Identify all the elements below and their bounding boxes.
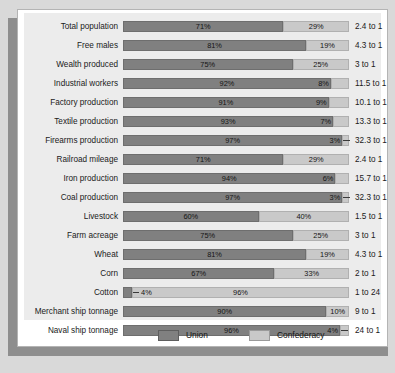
stacked-bar: 4%96% (123, 287, 349, 298)
stacked-bar: 71%29% (123, 154, 349, 165)
row-category-label: Wealth produced (24, 55, 118, 74)
bar-value-union: 75% (123, 59, 293, 70)
legend-label-confederacy: Confederacy (277, 330, 325, 340)
bar-value-confederacy: 40% (259, 211, 349, 222)
legend-entry-union[interactable]: Union (158, 326, 208, 344)
row-ratio-label: 4.3 to 1 (355, 36, 382, 55)
row-category-label: Free males (24, 36, 118, 55)
stacked-bar: 97%3% (123, 192, 349, 203)
bar-value-confederacy: 19% (306, 40, 349, 51)
row-ratio-label: 3 to 1 (355, 55, 376, 74)
row-category-label: Merchant ship tonnage (24, 302, 118, 321)
stacked-bar: 97%3% (123, 135, 349, 146)
bar-value-confederacy: 29% (283, 21, 349, 32)
chart-row: Merchant ship tonnage90%10%9 to 1 (24, 302, 381, 321)
row-category-label: Factory production (24, 93, 118, 112)
bar-segment-confederacy (331, 78, 349, 89)
stacked-bar: 81%19% (123, 249, 349, 260)
chart-card: Total population71%29%2.4 to 1Free males… (17, 9, 388, 347)
row-ratio-label: 9 to 1 (355, 302, 376, 321)
legend-label-union: Union (186, 330, 208, 340)
row-category-label: Total population (24, 17, 118, 36)
chart-row: Factory production91%9%10.1 to 1 (24, 93, 381, 112)
bar-value-union: 60% (123, 211, 259, 222)
chart-row: Cotton4%96%1 to 24 (24, 283, 381, 302)
bar-value-confederacy: 8% (123, 78, 329, 89)
row-ratio-label: 1.5 to 1 (355, 207, 382, 226)
bar-value-confederacy: 3% (123, 135, 340, 146)
row-category-label: Firearms production (24, 131, 118, 150)
bar-segment-confederacy (335, 173, 349, 184)
bar-value-confederacy: 25% (293, 59, 350, 70)
bar-value-confederacy: 96% (132, 287, 349, 298)
bar-segment-confederacy (329, 97, 349, 108)
bar-value-confederacy: 33% (274, 268, 349, 279)
row-category-label: Iron production (24, 169, 118, 188)
row-ratio-label: 2 to 1 (355, 264, 376, 283)
row-category-label: Textile production (24, 112, 118, 131)
chart-legend: UnionConfederacy (24, 326, 381, 344)
bar-value-confederacy: 19% (306, 249, 349, 260)
bar-value-confederacy: 9% (123, 97, 327, 108)
row-category-label: Farm acreage (24, 226, 118, 245)
row-ratio-label: 13.3 to 1 (355, 112, 387, 131)
stacked-bar: 90%10% (123, 306, 349, 317)
bar-value-confederacy: 10% (326, 306, 349, 317)
row-category-label: Wheat (24, 245, 118, 264)
row-ratio-label: 2.4 to 1 (355, 150, 382, 169)
bar-value-confederacy: 29% (283, 154, 349, 165)
page-background: Total population71%29%2.4 to 1Free males… (0, 0, 395, 373)
bar-value-union: 71% (123, 21, 283, 32)
bar-segment-union (123, 287, 132, 298)
row-ratio-label: 32.3 to 1 (355, 188, 387, 207)
stacked-bar: 91%9% (123, 97, 349, 108)
row-ratio-label: 11.5 to 1 (355, 74, 386, 93)
row-ratio-label: 4.3 to 1 (355, 245, 382, 264)
chart-row: Farm acreage75%25%3 to 1 (24, 226, 381, 245)
row-category-label: Coal production (24, 188, 118, 207)
row-category-label: Corn (24, 264, 118, 283)
stacked-bar: 75%25% (123, 59, 349, 70)
row-category-label: Railroad mileage (24, 150, 118, 169)
row-category-label: Cotton (24, 283, 118, 302)
stacked-bar: 93%7% (123, 116, 349, 127)
stacked-bar: 60%40% (123, 211, 349, 222)
bar-value-union: 67% (123, 268, 274, 279)
row-ratio-label: 15.7 to 1 (355, 169, 387, 188)
legend-entry-confederacy[interactable]: Confederacy (249, 326, 325, 344)
bar-value-union: 75% (123, 230, 293, 241)
chart-row: Industrial workers92%8%11.5 to 1 (24, 74, 381, 93)
row-ratio-label: 3 to 1 (355, 226, 376, 245)
chart-row: Textile production93%7%13.3 to 1 (24, 112, 381, 131)
card-shadow-bottom (8, 347, 388, 356)
bar-value-union: 71% (123, 154, 283, 165)
row-ratio-label: 2.4 to 1 (355, 17, 382, 36)
chart-row: Wealth produced75%25%3 to 1 (24, 55, 381, 74)
stacked-bar: 92%8% (123, 78, 349, 89)
chart-row: Livestock60%40%1.5 to 1 (24, 207, 381, 226)
row-category-label: Livestock (24, 207, 118, 226)
legend-swatch-union (158, 330, 179, 341)
chart-row: Wheat81%19%4.3 to 1 (24, 245, 381, 264)
row-ratio-label: 32.3 to 1 (355, 131, 387, 150)
chart-row: Iron production94%6%15.7 to 1 (24, 169, 381, 188)
legend-swatch-confederacy (249, 330, 270, 341)
leader-line (343, 140, 350, 141)
chart-row: Coal production97%3%32.3 to 1 (24, 188, 381, 207)
bar-value-confederacy: 3% (123, 192, 340, 203)
stacked-bar: 71%29% (123, 21, 349, 32)
bar-value-confederacy: 25% (293, 230, 350, 241)
stacked-bar: 67%33% (123, 268, 349, 279)
chart-row: Firearms production97%3%32.3 to 1 (24, 131, 381, 150)
bar-value-confederacy: 7% (123, 116, 331, 127)
row-category-label: Industrial workers (24, 74, 118, 93)
chart-row: Railroad mileage71%29%2.4 to 1 (24, 150, 381, 169)
stacked-bar: 81%19% (123, 40, 349, 51)
bar-value-union: 81% (123, 249, 306, 260)
chart-row: Free males81%19%4.3 to 1 (24, 36, 381, 55)
stacked-bar: 75%25% (123, 230, 349, 241)
leader-line (133, 292, 139, 293)
row-ratio-label: 10.1 to 1 (355, 93, 387, 112)
bar-value-union: 81% (123, 40, 306, 51)
chart-row: Corn67%33%2 to 1 (24, 264, 381, 283)
